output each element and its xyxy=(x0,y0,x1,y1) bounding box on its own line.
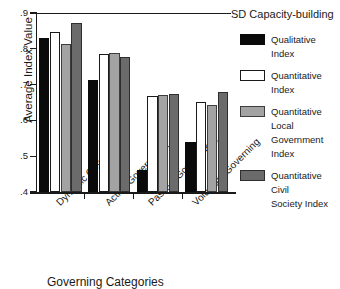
y-tick-label: .9 xyxy=(13,8,28,17)
bar xyxy=(185,142,195,192)
legend-label: Quantitative LocalGovernment Index xyxy=(271,105,340,161)
y-axis-title: Average Index Value xyxy=(22,0,34,150)
legend-item: Quantitative CivilSociety Index xyxy=(240,169,340,211)
legend-swatch xyxy=(240,170,265,181)
bar xyxy=(169,94,179,192)
x-tick-mark xyxy=(133,192,134,199)
legend-title: SD Capacity-building xyxy=(231,8,340,20)
x-tick-mark xyxy=(182,192,183,199)
legend-swatch xyxy=(240,34,265,45)
x-axis-title: Governing Categories xyxy=(47,275,164,289)
bar xyxy=(147,96,157,192)
legend-label: Quantitative Index xyxy=(271,69,340,97)
y-tick-label: .4 xyxy=(13,187,28,196)
legend-label: Qualitative Index xyxy=(271,33,340,61)
legend-item: Quantitative LocalGovernment Index xyxy=(240,105,340,161)
legend: SD Capacity-building Qualitative IndexQu… xyxy=(240,8,340,219)
bar xyxy=(196,102,206,192)
legend-items: Qualitative IndexQuantitative IndexQuant… xyxy=(240,33,340,211)
bar xyxy=(61,44,71,192)
bar xyxy=(88,80,98,192)
y-tick-label: .8 xyxy=(13,44,28,53)
bar xyxy=(218,92,228,192)
bar xyxy=(207,105,217,192)
legend-swatch xyxy=(240,106,265,117)
legend-swatch xyxy=(240,70,265,81)
bar xyxy=(99,54,109,192)
y-tick-label: .5 xyxy=(13,151,28,160)
legend-item: Qualitative Index xyxy=(240,33,340,61)
bar-series-container xyxy=(36,13,231,192)
bar xyxy=(109,53,119,192)
y-tick-label: .7 xyxy=(13,80,28,89)
bar xyxy=(120,57,130,192)
legend-item: Quantitative Index xyxy=(240,69,340,97)
bar xyxy=(158,95,168,192)
bar xyxy=(71,23,81,192)
bar xyxy=(50,32,60,192)
bar xyxy=(39,38,49,192)
legend-label: Quantitative CivilSociety Index xyxy=(271,169,340,211)
y-tick-label: .6 xyxy=(13,115,28,124)
bar xyxy=(137,170,147,192)
x-tick-mark xyxy=(84,192,85,199)
